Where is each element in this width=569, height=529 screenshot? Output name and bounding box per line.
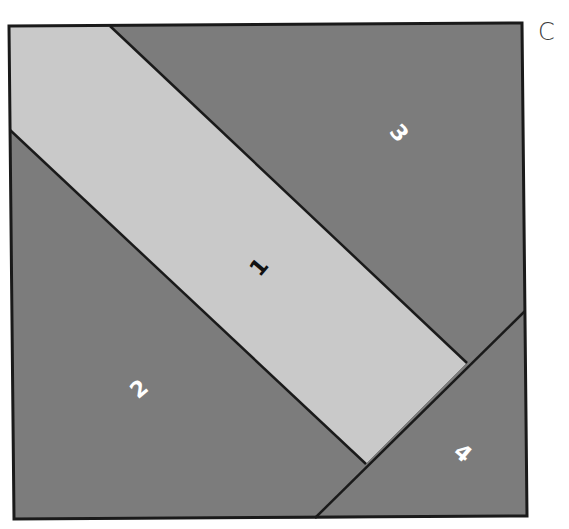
panel-label: C xyxy=(538,20,555,44)
quilt-block-diagram: 1234 xyxy=(0,0,569,529)
